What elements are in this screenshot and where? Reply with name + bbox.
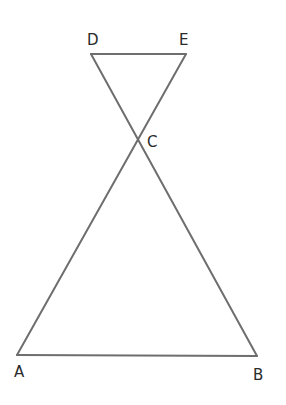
label-b: B: [253, 366, 263, 384]
segment-ab: [17, 355, 257, 356]
vertex-labels: A B C D E: [14, 31, 263, 384]
label-c: C: [147, 133, 157, 151]
label-a: A: [14, 363, 25, 381]
label-d: D: [87, 31, 99, 49]
segments: [17, 54, 257, 356]
triangle-diagram: A B C D E: [0, 0, 286, 405]
label-e: E: [179, 31, 188, 49]
segment-bd: [91, 54, 257, 356]
segment-ae: [17, 54, 186, 355]
